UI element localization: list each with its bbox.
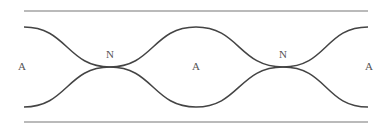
label-antinode-left: A (18, 60, 26, 72)
label-node-2: N (279, 48, 287, 60)
label-node-1: N (106, 48, 114, 60)
label-antinode-center: A (192, 60, 200, 72)
label-antinode-right: A (365, 60, 373, 72)
standing-wave-diagram: A N A N A (0, 0, 390, 123)
